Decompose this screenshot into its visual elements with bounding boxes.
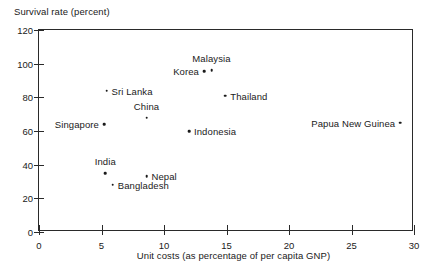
y-tick-label: 40 <box>0 159 33 170</box>
x-tick-mark-inner <box>289 225 290 230</box>
data-point <box>111 184 114 187</box>
scatter-chart: Survival rate (percent) 020406080100120 … <box>0 0 433 279</box>
x-tick-mark-inner <box>102 225 103 230</box>
y-tick-mark-inner <box>39 165 44 166</box>
y-tick-mark-inner <box>39 30 44 31</box>
y-tick-mark-inner <box>39 64 44 65</box>
y-tick-mark-inner <box>39 97 44 98</box>
data-point <box>203 70 206 73</box>
x-tick-mark <box>227 230 228 235</box>
y-tick-label: 60 <box>0 126 33 137</box>
y-tick-label: 120 <box>0 25 33 36</box>
x-tick-mark <box>164 230 165 235</box>
x-tick-mark <box>39 230 40 235</box>
data-point-label: India <box>95 156 116 167</box>
data-point-label: Thailand <box>230 90 267 101</box>
x-tick-mark-inner <box>227 225 228 230</box>
y-axis-title: Survival rate (percent) <box>14 6 110 17</box>
data-point-label: Malaysia <box>192 53 230 64</box>
data-point <box>145 175 148 178</box>
x-axis-title: Unit costs (as percentage of per capita … <box>137 250 330 261</box>
data-point-label: Singapore <box>55 119 99 130</box>
data-point <box>188 130 191 133</box>
x-tick-mark-inner <box>414 225 415 230</box>
x-axis-title-wrap: Unit costs (as percentage of per capita … <box>0 250 433 261</box>
data-point-label: Papua New Guinea <box>311 117 395 128</box>
data-point <box>103 123 106 126</box>
data-point <box>145 116 148 119</box>
data-point <box>210 69 213 72</box>
y-tick-label: 0 <box>0 227 33 238</box>
data-point-label: China <box>134 101 159 112</box>
x-tick-mark-inner <box>164 225 165 230</box>
y-tick-label: 100 <box>0 58 33 69</box>
data-point-label: Sri Lanka <box>112 85 153 96</box>
x-tick-mark <box>352 230 353 235</box>
x-tick-mark-inner <box>352 225 353 230</box>
data-point-label: Nepal <box>152 171 177 182</box>
y-tick-label: 80 <box>0 92 33 103</box>
data-point <box>224 94 227 97</box>
data-point-label: Indonesia <box>194 126 236 137</box>
data-point-label: Korea <box>173 66 199 77</box>
x-tick-mark <box>102 230 103 235</box>
data-point <box>105 89 108 92</box>
data-point <box>104 172 107 175</box>
data-point <box>399 121 402 124</box>
y-tick-label: 20 <box>0 193 33 204</box>
x-tick-mark <box>414 230 415 235</box>
y-tick-mark-inner <box>39 198 44 199</box>
x-tick-mark <box>289 230 290 235</box>
y-tick-mark-inner <box>39 131 44 132</box>
plot-area: 020406080100120 051015202530 SingaporeSr… <box>38 29 413 231</box>
x-tick-mark-inner <box>39 225 40 230</box>
